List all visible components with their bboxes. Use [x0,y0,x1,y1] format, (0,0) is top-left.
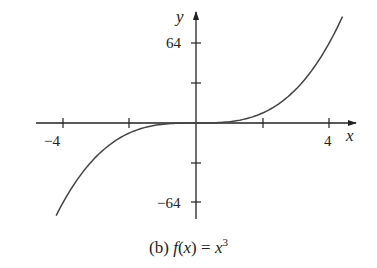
y-tick-label-neg64: −64 [157,195,181,211]
caption-arg: x [184,238,192,257]
x-tick-label-4: 4 [324,133,332,149]
x-tick-label-neg4: −4 [44,133,60,149]
caption-exponent: 3 [222,236,228,248]
figure-caption: (b) f(x) = x3 [0,236,377,258]
cubic-curve [56,17,342,216]
y-tick-label-64: 64 [166,35,182,51]
caption-prefix: (b) [149,238,173,257]
cubic-function-plot: y x −4 4 64 −64 [0,0,377,268]
x-axis-label: x [345,126,354,145]
caption-equals: = [197,238,215,257]
y-axis-label: y [174,7,184,26]
